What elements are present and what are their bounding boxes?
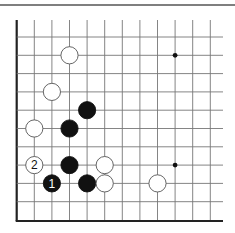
move-number-label: 1 [49, 177, 56, 191]
black-stone-1: 1 [43, 175, 60, 192]
white-stone [61, 47, 78, 64]
white-stone [149, 175, 166, 192]
white-stone [43, 83, 60, 100]
black-stone [79, 102, 96, 119]
white-stone-2: 2 [26, 157, 43, 174]
star-point-icon [173, 53, 178, 58]
black-stone [61, 157, 78, 174]
go-board: 21 [0, 0, 235, 233]
white-stone [96, 175, 113, 192]
black-stone [79, 175, 96, 192]
white-stone [96, 157, 113, 174]
star-point-icon [173, 163, 178, 168]
black-stone [61, 120, 78, 137]
stones: 21 [26, 47, 166, 192]
white-stone [26, 120, 43, 137]
move-number-label: 2 [31, 158, 38, 172]
